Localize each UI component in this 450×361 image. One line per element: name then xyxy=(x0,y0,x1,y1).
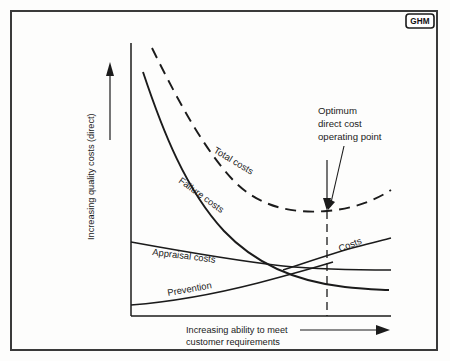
optimum-annotation-line1: Optimum xyxy=(318,105,357,116)
optimum-annotation-line3: operating point xyxy=(318,131,382,142)
figure-root: GHM Increasing quality costs (direct) xyxy=(0,0,450,361)
x-axis-label-line2: customer requirements xyxy=(186,337,280,347)
y-axis-label: Increasing quality costs (direct) xyxy=(86,113,96,240)
optimum-annotation-line2: direct cost xyxy=(318,118,362,129)
x-axis-label-line1: Increasing ability to meet xyxy=(186,325,288,335)
ghm-logo-label: GHM xyxy=(410,17,430,26)
ghm-logo: GHM xyxy=(406,14,434,28)
quality-cost-chart: GHM Increasing quality costs (direct) xyxy=(0,0,450,361)
page-background xyxy=(0,0,450,361)
